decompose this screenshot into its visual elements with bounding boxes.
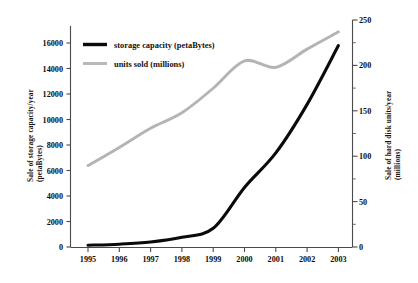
x-tick-label-1998: 1998 <box>174 255 190 264</box>
x-tick-label-1995: 1995 <box>80 255 96 264</box>
left-tick-label-10000: 10000 <box>43 116 63 125</box>
left-tick-label-4000: 4000 <box>47 192 63 201</box>
x-tick-label-2002: 2002 <box>299 255 315 264</box>
left-tick-label-12000: 12000 <box>43 90 63 99</box>
legend-label-storage-capacity: storage capacity (petaBytes) <box>114 41 215 50</box>
x-axis-tick-labels: 1995 1996 1997 1998 1999 2000 2001 2002 … <box>80 255 347 264</box>
right-tick-label-50: 50 <box>359 198 367 207</box>
right-axis-title-line2: (millions) <box>393 149 402 180</box>
x-tick-label-1999: 1999 <box>205 255 221 264</box>
x-tick-label-1996: 1996 <box>111 255 127 264</box>
left-tick-label-0: 0 <box>59 243 63 252</box>
dual-axis-line-chart: 0 2000 4000 6000 8000 10000 12000 14000 … <box>0 0 418 283</box>
right-tick-label-250: 250 <box>359 16 371 25</box>
x-tick-label-1997: 1997 <box>142 255 158 264</box>
right-tick-label-0: 0 <box>359 243 363 252</box>
left-axis-title-line2: (petaBytes) <box>35 145 44 182</box>
left-tick-label-2000: 2000 <box>47 218 63 227</box>
left-tick-label-8000: 8000 <box>47 141 63 150</box>
legend-label-units-sold: units sold (millions) <box>114 60 184 69</box>
left-tick-label-16000: 16000 <box>43 39 63 48</box>
x-tick-label-2001: 2001 <box>268 255 284 264</box>
left-tick-label-14000: 14000 <box>43 65 63 74</box>
x-tick-label-2003: 2003 <box>330 255 346 264</box>
left-axis-title-line1: Sale of storage capacity/year <box>26 88 35 182</box>
left-tick-label-6000: 6000 <box>47 167 63 176</box>
right-tick-label-150: 150 <box>359 107 371 116</box>
x-tick-label-2000: 2000 <box>236 255 252 264</box>
right-axis-title-line1: Sale of hard disk units/year <box>384 90 393 180</box>
right-tick-label-100: 100 <box>359 152 371 161</box>
right-tick-label-200: 200 <box>359 61 371 70</box>
